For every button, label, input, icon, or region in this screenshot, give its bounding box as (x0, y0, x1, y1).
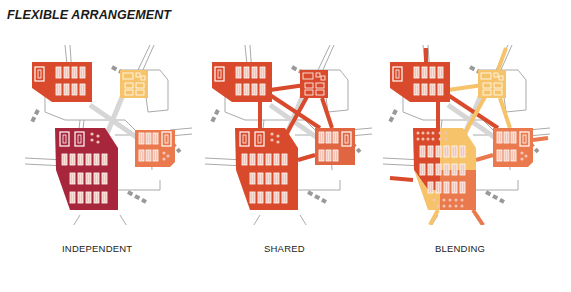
panel-independent (20, 40, 195, 225)
label-shared: SHARED (264, 243, 305, 254)
label-independent: INDEPENDENT (62, 243, 132, 254)
diagram-title: FLEXIBLE ARRANGEMENT (7, 8, 171, 22)
panel-blending (378, 40, 553, 225)
blending-diagram (378, 40, 553, 225)
shared-diagram (200, 40, 375, 225)
label-blending: BLENDING (435, 243, 485, 254)
panel-shared (200, 40, 375, 225)
independent-diagram (20, 40, 195, 225)
